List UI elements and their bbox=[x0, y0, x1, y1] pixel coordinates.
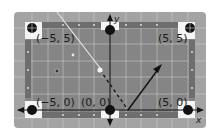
ball-dark bbox=[55, 69, 59, 73]
pocket-label: (−5, 0) bbox=[36, 96, 75, 109]
x-axis-label: x bbox=[195, 115, 202, 125]
pool-table-diagram: y x (−5, 5) (5, 5) (−5, 0) (0, 0) (5, 0) bbox=[0, 0, 215, 131]
ball bbox=[72, 54, 75, 57]
pocket-label: (5, 5) bbox=[158, 32, 188, 45]
pocket-label: (5, 0) bbox=[158, 96, 188, 109]
pocket-icon bbox=[105, 25, 115, 35]
pocket-label: (−5, 5) bbox=[36, 32, 75, 45]
cushion-right bbox=[189, 40, 195, 98]
y-axis-label: y bbox=[113, 14, 120, 24]
cue-ball bbox=[97, 67, 102, 72]
pocket-label: (0, 0) bbox=[81, 96, 111, 109]
cushion-left bbox=[25, 40, 31, 98]
